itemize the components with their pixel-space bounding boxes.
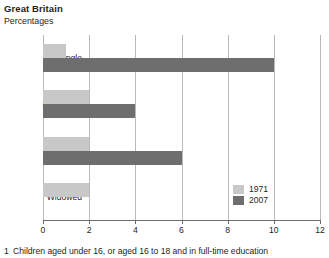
bar-divorced-2007 <box>43 151 182 165</box>
bar-separated-2007 <box>43 104 135 118</box>
bar-single-1971 <box>43 44 66 58</box>
footnote-marker: 1 <box>4 246 13 257</box>
bar-separated-1971 <box>43 90 89 104</box>
bar-divorced-1971 <box>43 137 89 151</box>
x-axis-tick-label: 6 <box>167 225 197 236</box>
x-axis-tick <box>43 220 44 224</box>
x-axis-tick <box>274 220 275 224</box>
bar-single-2007 <box>43 58 274 72</box>
bar-widowed-1971 <box>43 183 89 197</box>
x-axis-tick <box>228 220 229 224</box>
gridline <box>320 35 321 220</box>
x-axis-tick <box>182 220 183 224</box>
x-axis-tick-label: 10 <box>259 225 289 236</box>
chart-header: Great Britain Percentages <box>4 2 324 28</box>
footnote: 1Children aged under 16, or aged 16 to 1… <box>4 246 329 257</box>
footnote-text: Children aged under 16, or aged 16 to 18… <box>13 246 268 256</box>
chart-subtitle: Percentages <box>4 15 324 28</box>
legend-label-2007: 2007 <box>249 195 268 206</box>
x-axis-tick-label: 12 <box>305 225 329 236</box>
x-axis-tick-label: 4 <box>120 225 150 236</box>
x-axis-tick <box>320 220 321 224</box>
legend-swatch-2007-icon <box>233 196 244 205</box>
gridline <box>274 35 275 220</box>
x-axis-tick-label: 8 <box>213 225 243 236</box>
x-axis-tick-label: 2 <box>74 225 104 236</box>
x-axis-tick-label: 0 <box>28 225 58 236</box>
plot-area: SingleSeparatedDivorcedWidowed <box>43 35 320 220</box>
legend-swatch-1971-icon <box>233 185 244 194</box>
x-axis-tick <box>89 220 90 224</box>
legend-label-1971: 1971 <box>249 184 268 195</box>
x-axis-tick <box>135 220 136 224</box>
page-title: Great Britain <box>4 2 324 15</box>
